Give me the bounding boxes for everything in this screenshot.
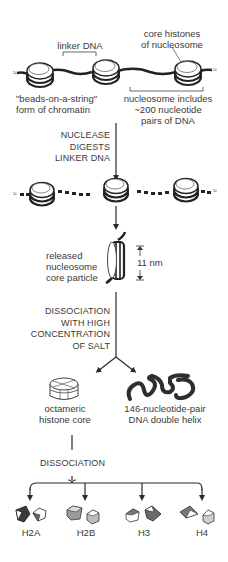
histone-h2a-icon (16, 506, 46, 522)
linker-dna-label: linker DNA (52, 40, 108, 51)
svg-text:≈: ≈ (13, 190, 17, 197)
histone-h4-label: H4 (187, 527, 217, 538)
octameric-core-label: octameric histone core (30, 403, 100, 425)
beads-on-string-chromatin: ≈ ≈ (13, 47, 217, 91)
digested-chromatin: ≈ ≈ (13, 179, 217, 206)
size-label: 11 nm (137, 257, 163, 268)
released-particle-label: released nucleosome core particle (46, 250, 98, 283)
svg-text:≈: ≈ (213, 187, 217, 194)
histone-h4-icon (180, 506, 214, 524)
salt-dissociation-step-label: DISSOCIATION WITH HIGH CONCENTRATION OF … (20, 306, 110, 352)
histone-h3-label: H3 (129, 527, 159, 538)
nucleosome-includes-label: nucleosome includes ~200 nucleotide pair… (118, 93, 218, 126)
beads-on-string-label: "beads-on-a-string" form of chromatin (16, 93, 97, 115)
svg-text:≈: ≈ (13, 69, 17, 76)
dna-double-helix-icon (129, 375, 193, 399)
histone-h2b-label: H2B (71, 527, 101, 538)
nucleosome-core-particle-icon (106, 232, 125, 283)
nuclease-step-label: NUCLEASE DIGESTS LINKER DNA (40, 130, 110, 165)
dissociation-step-label: DISSOCIATION (40, 458, 105, 470)
octameric-histone-core-icon (50, 378, 78, 400)
dna-helix-label: 146-nucleotide-pair DNA double helix (120, 403, 210, 425)
diagram-artwork: ≈ ≈ ≈ ≈ (0, 0, 228, 562)
core-histones-label: core histones of nucleosome (132, 28, 212, 50)
histone-h2a-label: H2A (16, 527, 46, 538)
histone-h2b-icon (67, 506, 99, 524)
svg-text:≈: ≈ (213, 66, 217, 73)
histone-h3-icon (126, 506, 161, 522)
